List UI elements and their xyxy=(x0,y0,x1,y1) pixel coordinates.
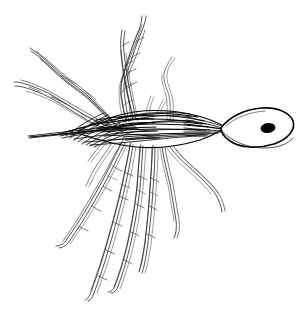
drawing-background xyxy=(0,0,302,311)
line-drawing xyxy=(0,0,302,311)
figure-canvas xyxy=(0,0,302,311)
